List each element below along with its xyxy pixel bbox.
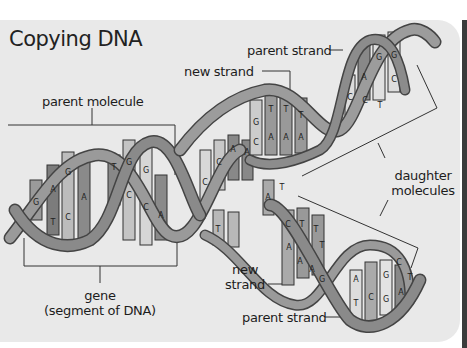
svg-text:G: G bbox=[143, 166, 149, 175]
svg-text:C: C bbox=[391, 75, 397, 84]
label-daughter-molecules: daughter molecules bbox=[383, 168, 463, 198]
svg-text:T: T bbox=[313, 225, 319, 234]
svg-text:G: G bbox=[383, 271, 389, 280]
svg-text:A: A bbox=[230, 145, 236, 154]
svg-text:A: A bbox=[158, 211, 164, 220]
svg-text:C: C bbox=[253, 138, 259, 147]
label-parent-molecule: parent molecule bbox=[42, 94, 143, 109]
svg-text:T: T bbox=[377, 101, 383, 110]
label-parent-strand-bottom: parent strand bbox=[242, 310, 327, 325]
label-daughter-line1: daughter bbox=[383, 168, 463, 183]
svg-text:T: T bbox=[319, 241, 325, 250]
svg-text:G: G bbox=[376, 53, 382, 62]
label-gene-line1: gene bbox=[40, 288, 160, 303]
svg-text:T: T bbox=[407, 273, 413, 282]
label-new-strand-top: new strand bbox=[184, 64, 254, 79]
svg-text:C: C bbox=[65, 213, 71, 222]
label-new-line1: new bbox=[222, 262, 268, 277]
svg-text:G: G bbox=[65, 168, 71, 177]
svg-text:A: A bbox=[81, 193, 87, 202]
svg-text:T: T bbox=[283, 105, 289, 114]
svg-text:A: A bbox=[286, 243, 292, 252]
label-parent-strand-top: parent strand bbox=[247, 43, 332, 58]
svg-text:T: T bbox=[215, 225, 221, 234]
svg-text:C: C bbox=[202, 178, 208, 187]
label-gene-line2: (segment of DNA) bbox=[40, 303, 160, 318]
label-strand-line2: strand bbox=[222, 277, 268, 292]
svg-text:C: C bbox=[285, 220, 291, 229]
svg-text:A: A bbox=[309, 265, 315, 274]
svg-text:A: A bbox=[244, 148, 250, 157]
svg-text:C: C bbox=[126, 191, 132, 200]
svg-text:T: T bbox=[111, 163, 117, 172]
svg-text:A: A bbox=[265, 193, 271, 202]
svg-text:T: T bbox=[298, 111, 304, 120]
svg-text:T: T bbox=[268, 105, 274, 114]
svg-text:G: G bbox=[391, 51, 397, 60]
label-daughter-line2: molecules bbox=[383, 183, 463, 198]
svg-text:A: A bbox=[298, 133, 304, 142]
svg-text:C: C bbox=[362, 96, 368, 105]
svg-text:T: T bbox=[353, 299, 359, 308]
label-new-strand-bottom: new strand bbox=[222, 262, 268, 292]
svg-text:C: C bbox=[143, 203, 149, 212]
svg-text:G: G bbox=[33, 198, 39, 207]
svg-text:T: T bbox=[299, 220, 305, 229]
svg-text:A: A bbox=[283, 133, 289, 142]
label-gene: gene (segment of DNA) bbox=[40, 288, 160, 318]
svg-text:C: C bbox=[347, 93, 353, 102]
svg-text:C: C bbox=[368, 293, 374, 302]
svg-text:A: A bbox=[353, 275, 359, 284]
svg-text:T: T bbox=[50, 218, 56, 227]
svg-text:A: A bbox=[297, 257, 303, 266]
svg-text:A: A bbox=[361, 73, 367, 82]
svg-text:A: A bbox=[268, 133, 274, 142]
svg-text:G: G bbox=[253, 118, 259, 127]
svg-text:A: A bbox=[398, 288, 404, 297]
svg-text:G: G bbox=[319, 275, 325, 284]
svg-text:T: T bbox=[279, 183, 285, 192]
svg-text:G: G bbox=[126, 158, 132, 167]
svg-text:A: A bbox=[50, 185, 56, 194]
svg-text:C: C bbox=[396, 258, 402, 267]
svg-text:G: G bbox=[383, 295, 389, 304]
svg-text:C: C bbox=[216, 158, 222, 167]
